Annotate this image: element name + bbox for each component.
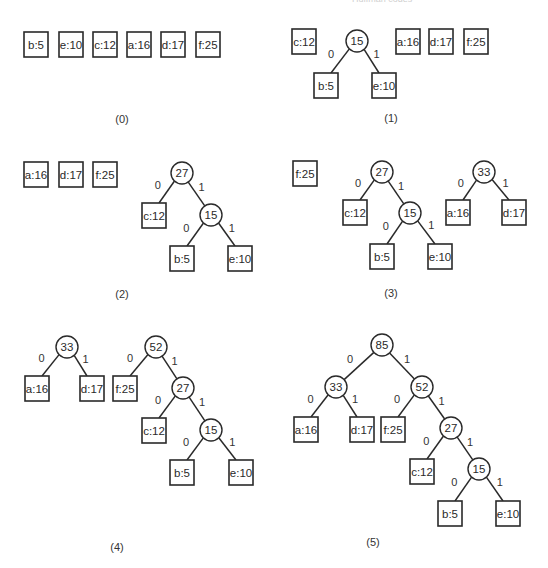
tree-edge: [387, 221, 403, 244]
leaf-node-label: a:16: [447, 207, 469, 219]
edge-bit-label: 0: [155, 179, 161, 191]
edge-bit-label: 0: [383, 220, 389, 232]
edge-bit-label: 0: [394, 393, 400, 405]
panel-caption: (2): [115, 288, 128, 300]
leaf-node-label: e:10: [429, 251, 451, 263]
leaf-node-label: e:10: [497, 508, 519, 520]
edge-bit-label: 0: [347, 353, 353, 365]
internal-node-weight: 15: [205, 424, 218, 436]
edge-bit-label: 1: [229, 222, 235, 234]
internal-node-weight: 15: [404, 207, 417, 219]
leaf-node-label: f:25: [295, 168, 314, 180]
panel-1: 01c:12b:5e:10a:16d:17f:2515(1): [292, 29, 488, 124]
internal-node-weight: 15: [473, 463, 486, 475]
leaf-node-label: a:16: [26, 383, 48, 395]
panel-3: 010101f:25c:12b:5e:10a:16d:17271533(3): [293, 161, 526, 299]
internal-node-weight: 27: [177, 382, 190, 394]
tree-edge: [159, 181, 174, 203]
internal-node-weight: 27: [176, 167, 189, 179]
leaf-node-label: a:16: [397, 36, 419, 48]
internal-node-weight: 15: [351, 35, 364, 47]
leaf-node-label: f:25: [466, 36, 485, 48]
leaf-node-label: a:16: [128, 39, 150, 51]
edge-bit-label: 1: [467, 436, 473, 448]
internal-node-weight: 27: [376, 166, 389, 178]
leaf-node-label: b:5: [174, 467, 190, 479]
internal-node-weight: 52: [416, 381, 429, 393]
tree-edge: [360, 180, 374, 200]
edge-bit-label: 0: [328, 48, 334, 60]
edge-bit-label: 1: [198, 181, 204, 193]
panel-caption: (4): [110, 541, 123, 553]
panel-caption: (3): [384, 287, 397, 299]
edge-bit-label: 0: [127, 352, 133, 364]
edge-bit-label: 0: [183, 222, 189, 234]
edge-bit-label: 0: [458, 177, 464, 189]
edge-bit-label: 1: [83, 353, 89, 365]
edge-bit-label: 0: [423, 435, 429, 447]
leaf-node-label: c:12: [143, 425, 165, 437]
leaf-node-label: a:16: [25, 169, 47, 181]
leaf-node-label: e:10: [230, 467, 252, 479]
tree-edge: [390, 353, 415, 379]
leaf-node-label: e:10: [60, 39, 82, 51]
panel-caption: (0): [115, 113, 128, 125]
leaf-node-label: f:25: [95, 169, 114, 181]
leaf-node-label: e:10: [373, 80, 395, 92]
internal-node-weight: 52: [150, 341, 163, 353]
internal-node-weight: 27: [445, 422, 458, 434]
panel-caption: (5): [366, 536, 379, 548]
edge-bit-label: 0: [355, 177, 361, 189]
edge-bit-label: 1: [502, 177, 508, 189]
leaf-node-label: b:5: [318, 80, 334, 92]
panel-0: b:5e:10c:12a:16d:17f:25(0): [24, 32, 220, 125]
edge-bit-label: 1: [373, 48, 379, 60]
leaf-node-label: d:17: [81, 383, 103, 395]
leaf-node-label: d:17: [60, 169, 82, 181]
tree-edge: [463, 180, 477, 200]
internal-node-weight: 85: [376, 339, 389, 351]
tree-edge: [187, 223, 203, 246]
panel-5: 0101010101a:16d:17f:25c:12b:5e:108533522…: [294, 334, 520, 548]
edge-bit-label: 1: [404, 353, 410, 365]
leaf-node-label: c:12: [293, 36, 315, 48]
leaf-node-label: c:12: [143, 210, 165, 222]
tree-edge: [455, 477, 472, 501]
leaf-node-label: b:5: [374, 251, 390, 263]
leaf-node-label: d:17: [351, 424, 373, 436]
leaf-node-label: f:25: [383, 424, 402, 436]
edge-bit-label: 0: [38, 352, 44, 364]
internal-node-weight: 33: [478, 166, 491, 178]
leaf-node-label: e:10: [229, 253, 251, 265]
leaf-node-label: d:17: [503, 207, 525, 219]
leaf-node-label: b:5: [28, 39, 44, 51]
tree-edge: [187, 438, 203, 460]
leaf-node-label: c:12: [411, 466, 433, 478]
tree-edge: [398, 395, 414, 417]
leaf-node-label: c:12: [94, 39, 116, 51]
leaf-node-label: a:16: [295, 424, 317, 436]
internal-node-weight: 33: [61, 341, 74, 353]
edge-bit-label: 1: [428, 219, 434, 231]
edge-bit-label: 1: [438, 395, 444, 407]
leaf-node-label: b:5: [442, 508, 458, 520]
panel-4: 01010101a:16d:17f:25c:12b:5e:1033522715(…: [25, 336, 253, 553]
leaf-node-label: d:17: [430, 36, 452, 48]
edge-bit-label: 1: [352, 393, 358, 405]
edge-bit-label: 0: [155, 394, 161, 406]
edge-bit-label: 0: [308, 393, 314, 405]
edge-bit-label: 1: [171, 355, 177, 367]
edge-bit-label: 1: [199, 396, 205, 408]
leaf-node-label: f:25: [115, 383, 134, 395]
panel-2: 0101a:16d:17f:25c:12b:5e:102715(2): [24, 162, 252, 300]
leaf-node-label: d:17: [162, 39, 184, 51]
leaf-node-label: b:5: [174, 253, 190, 265]
edge-bit-label: 1: [229, 436, 235, 448]
internal-node-weight: 33: [330, 381, 343, 393]
tree-edge: [427, 436, 443, 459]
tree-edge: [159, 396, 175, 418]
internal-node-weight: 15: [205, 209, 218, 221]
leaf-node-label: c:12: [344, 207, 366, 219]
edge-bit-label: 0: [183, 436, 189, 448]
edge-bit-label: 1: [497, 476, 503, 488]
